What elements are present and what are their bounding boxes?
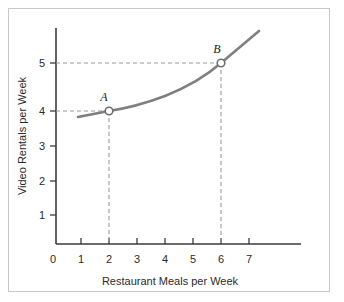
x-tick-label-6: 6: [218, 253, 224, 265]
x-tick-label-2: 2: [106, 253, 112, 265]
y-tick-label-4: 4: [39, 105, 45, 117]
data-point-b-marker: [217, 59, 225, 67]
x-tick-label-7: 7: [246, 253, 252, 265]
x-tick-label-3: 3: [134, 253, 140, 265]
x-tick-label-0: 0: [50, 253, 56, 265]
y-tick-label-2: 2: [39, 175, 45, 187]
x-tick-label-5: 5: [190, 253, 196, 265]
y-tick-label-5: 5: [39, 57, 45, 69]
x-axis-title: Restaurant Meals per Week: [102, 275, 239, 287]
x-tick-label-1: 1: [78, 253, 84, 265]
data-point-a-label: A: [99, 90, 108, 104]
y-tick-label-1: 1: [39, 209, 45, 221]
data-point-a-marker: [105, 107, 113, 115]
chart-plot-area: 5 4 3 2 1 0 1 2 3 4 5 6 7: [9, 9, 331, 293]
indifference-curve-chart: 5 4 3 2 1 0 1 2 3 4 5 6 7: [9, 9, 331, 293]
figure-frame: 5 4 3 2 1 0 1 2 3 4 5 6 7: [8, 8, 330, 292]
y-axis-title: Video Rentals per Week: [16, 76, 28, 195]
y-tick-label-3: 3: [39, 140, 45, 152]
data-point-b-label: B: [213, 42, 221, 56]
budget-curve: [78, 31, 259, 117]
x-tick-label-4: 4: [162, 253, 168, 265]
